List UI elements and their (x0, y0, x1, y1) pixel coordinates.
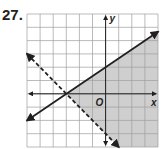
origin-label: O (96, 97, 104, 108)
shaded-region (66, 32, 158, 147)
inequality-graph: xyO (0, 0, 165, 149)
y-axis-label: y (109, 13, 116, 24)
x-axis-label: x (150, 97, 157, 108)
